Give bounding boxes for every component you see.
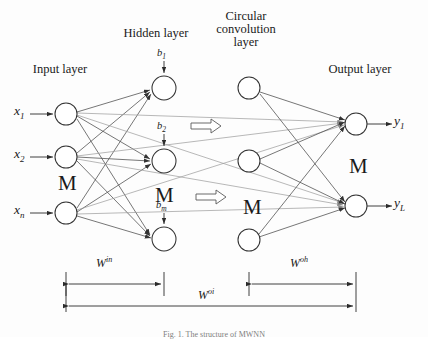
- node-hidden-1: [152, 76, 176, 100]
- output-arrows: [367, 124, 392, 206]
- hollow-block-arrows: [191, 119, 226, 204]
- weight-label-woh-sup: oh: [300, 255, 308, 264]
- weight-label-woi: Woi: [198, 288, 214, 302]
- ellipsis-input-layer: M: [58, 172, 77, 194]
- input-label-xn: xn: [14, 203, 25, 220]
- node-conv-2: [238, 150, 260, 172]
- input-label-x2: x2: [14, 147, 25, 164]
- bias-label-b1: b1: [157, 47, 166, 61]
- node-conv-1: [238, 77, 260, 99]
- input-layer-nodes: [55, 103, 77, 224]
- output-label-y1: y1: [394, 114, 405, 131]
- layer-title-hidden: Hidden layer: [108, 27, 204, 40]
- weight-label-woh-base: W: [290, 256, 300, 270]
- hidden-layer-nodes: [152, 76, 176, 251]
- bias-label-b1-sub: 1: [162, 52, 166, 61]
- weight-label-win-base: W: [96, 256, 106, 270]
- input-label-x1-sub: 1: [20, 111, 25, 121]
- weight-label-win: Win: [96, 256, 112, 270]
- output-label-yL-sub: L: [400, 203, 405, 213]
- input-label-x2-sub: 2: [20, 154, 25, 164]
- layer-title-output: Output layer: [310, 63, 410, 76]
- input-label-x1: x1: [14, 104, 25, 121]
- bias-label-b2-sub: 2: [162, 125, 166, 134]
- weight-label-woi-base: W: [198, 288, 208, 302]
- node-hidden-2: [152, 149, 176, 173]
- ellipsis-hidden-layer: M: [155, 184, 174, 206]
- weight-label-woi-sup: oi: [208, 287, 214, 296]
- conv-title-line-3: layer: [198, 36, 294, 49]
- node-input-2: [55, 146, 77, 168]
- ellipsis-convolution-layer: M: [243, 196, 262, 218]
- convolution-layer-nodes: [238, 77, 260, 251]
- edges-convolution-to-output: [259, 92, 345, 237]
- node-hidden-m: [152, 227, 176, 251]
- hollow-arrow-upper: [191, 119, 221, 133]
- layer-title-circular-convolution: Circular convolution layer: [198, 10, 294, 49]
- hollow-arrow-lower: [196, 190, 226, 204]
- node-input-1: [55, 103, 77, 125]
- output-label-y1-sub: 1: [400, 121, 405, 131]
- node-input-n: [55, 202, 77, 224]
- figure-caption: Fig. 1. The structure of MWNN: [0, 330, 428, 339]
- weight-label-woh: Woh: [290, 256, 308, 270]
- input-arrows: [30, 114, 53, 213]
- node-output-1: [345, 113, 367, 135]
- layer-title-input: Input layer: [12, 63, 108, 76]
- output-label-yL: yL: [394, 196, 405, 213]
- edges-input-to-hidden: [77, 90, 151, 238]
- weight-label-win-sup: in: [106, 255, 112, 264]
- bias-label-b2: b2: [157, 120, 166, 134]
- node-output-L: [345, 195, 367, 217]
- input-label-xn-sub: n: [20, 210, 25, 220]
- ellipsis-output-layer: M: [349, 155, 368, 177]
- node-conv-m: [238, 229, 260, 251]
